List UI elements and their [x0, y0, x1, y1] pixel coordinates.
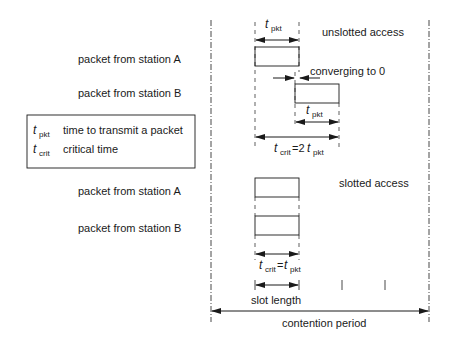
svg-text:t: t — [259, 258, 263, 272]
packet-a-unslotted — [255, 47, 299, 66]
legend-item-tpkt: t pkt time to transmit a packet — [33, 123, 183, 139]
packet-a-slotted — [255, 178, 299, 197]
packet-b-slotted — [255, 216, 299, 235]
unslotted-title: unslotted access — [322, 26, 404, 38]
label-packet-a-slotted: packet from station A — [78, 185, 181, 197]
svg-text:pkt: pkt — [290, 265, 301, 274]
aloha-diagram: unslotted access t pkt converging to 0 t… — [0, 0, 451, 347]
svg-text:=: = — [277, 259, 283, 271]
svg-text:t: t — [33, 123, 37, 137]
tpkt-label-b: t pkt — [306, 103, 323, 119]
converging-label: converging to 0 — [310, 65, 385, 77]
label-packet-b-unslotted: packet from station B — [78, 87, 181, 99]
label-packet-b-slotted: packet from station B — [78, 222, 181, 234]
svg-text:t: t — [33, 142, 37, 156]
svg-text:pkt: pkt — [313, 148, 324, 157]
tcrit-2tpkt-label: t crit =2 t pkt — [274, 141, 324, 157]
svg-text:crit: crit — [39, 149, 50, 158]
contention-period-label: contention period — [282, 317, 366, 329]
svg-text:t: t — [306, 103, 310, 117]
svg-text:crit: crit — [265, 265, 276, 274]
svg-text:t: t — [284, 258, 288, 272]
slot-length-label: slot length — [251, 294, 301, 306]
svg-text:crit: crit — [280, 148, 291, 157]
svg-text:pkt: pkt — [312, 110, 323, 119]
tcrit-eq-tpkt-label: t crit = t pkt — [259, 258, 301, 274]
packet-b-unslotted — [295, 84, 339, 103]
legend-item-tcrit: t crit critical time — [33, 142, 118, 158]
svg-text:pkt: pkt — [271, 24, 282, 33]
svg-text:pkt: pkt — [39, 130, 50, 139]
svg-text:t: t — [265, 17, 269, 31]
svg-text:t: t — [307, 141, 311, 155]
svg-text:t: t — [274, 141, 278, 155]
slotted-title: slotted access — [339, 177, 409, 189]
label-packet-a-unslotted: packet from station A — [78, 53, 181, 65]
svg-text:time to transmit a packet: time to transmit a packet — [63, 124, 183, 136]
svg-text:=2: =2 — [292, 142, 305, 154]
svg-text:critical time: critical time — [63, 143, 118, 155]
tpkt-label-top: t pkt — [265, 17, 282, 33]
legend-box: t pkt time to transmit a packet t crit c… — [27, 115, 195, 168]
